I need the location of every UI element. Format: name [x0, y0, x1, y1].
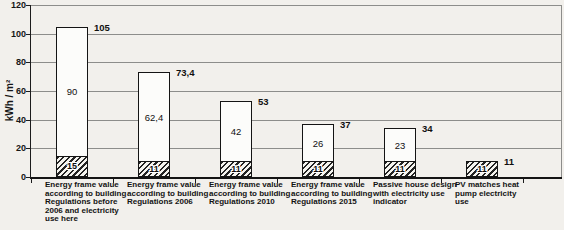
category-label: Energy frame valueaccording to buildingR… — [209, 181, 290, 207]
category-label: Energy frame valueaccording to buildingR… — [291, 181, 372, 207]
y-tick-mark — [26, 34, 31, 35]
y-tick-label: 120 — [0, 0, 26, 10]
bar-2: 62,411 — [138, 72, 170, 177]
bar-total-label: 11 — [504, 156, 514, 167]
category-label-line: Regulations 2015 — [291, 198, 372, 207]
bar-segment-white: 90 — [56, 27, 88, 157]
bar-total-label: 37 — [340, 119, 351, 130]
bar-segment-label: 15 — [67, 161, 77, 171]
bar-total-label: 73,4 — [176, 67, 195, 78]
y-tick-label: 60 — [0, 86, 26, 96]
y-tick-label: 20 — [0, 143, 26, 153]
plot-border-top — [31, 5, 562, 6]
category-label: Energy frame valueaccording to buildingR… — [127, 181, 208, 207]
category-label: PV matches heatpump electricityuse — [455, 181, 519, 207]
y-tick-mark — [26, 91, 31, 92]
gridline — [31, 120, 561, 121]
x-axis-line — [30, 177, 562, 179]
bar-segment-label: 11 — [231, 164, 241, 174]
bar-segment-hatched: 11 — [138, 161, 170, 177]
bar-total-label: 34 — [422, 123, 433, 134]
category-label-line: Regulations 2010 — [209, 198, 290, 207]
bar-total-label: 53 — [258, 96, 269, 107]
y-tick-mark — [26, 5, 31, 6]
x-tick-mark — [523, 179, 524, 183]
bar-segment-label: 42 — [231, 126, 242, 137]
bar-total-label: 105 — [94, 22, 110, 33]
plot-border-right — [561, 5, 562, 178]
bar-segment-hatched: 11 — [302, 161, 334, 177]
y-tick-label: 40 — [0, 115, 26, 125]
y-tick-mark — [26, 177, 31, 178]
bar-segment-label: 11 — [477, 164, 487, 174]
bar-segment-white: 62,4 — [138, 72, 170, 162]
gridline — [31, 62, 561, 63]
y-tick-label: 100 — [0, 29, 26, 39]
bar-segment-label: 11 — [149, 164, 159, 174]
y-tick-label: 80 — [0, 57, 26, 67]
bar-segment-label: 90 — [67, 86, 78, 97]
gridline — [31, 34, 561, 35]
x-tick-mark — [31, 179, 32, 183]
y-axis-title: kWh / m² — [3, 56, 16, 146]
gridline — [31, 91, 561, 92]
bar-segment-label: 11 — [395, 164, 405, 174]
bar-6: 11 — [466, 161, 498, 177]
bar-segment-hatched: 15 — [56, 156, 88, 178]
bar-segment-hatched: 11 — [384, 161, 416, 177]
bar-segment-white: 26 — [302, 124, 334, 162]
bar-segment-label: 23 — [395, 140, 406, 151]
category-label: Energy frame valueaccording to buildingR… — [45, 181, 126, 224]
category-label-line: indicator — [373, 198, 457, 207]
y-tick-label: 0 — [0, 172, 26, 182]
stacked-bar-chart: kWh / m² 0204060801001209015105Energy fr… — [0, 0, 564, 230]
bar-segment-white: 42 — [220, 101, 252, 162]
bar-segment-label: 26 — [313, 138, 324, 149]
bar-segment-hatched: 11 — [466, 161, 498, 177]
y-tick-mark — [26, 62, 31, 63]
bar-4: 2611 — [302, 124, 334, 177]
y-tick-mark — [26, 120, 31, 121]
gridline — [31, 148, 561, 149]
category-label-line: Regulations 2006 — [127, 198, 208, 207]
bar-segment-white: 23 — [384, 128, 416, 162]
bar-1: 9015 — [56, 27, 88, 178]
bar-segment-label: 11 — [313, 164, 323, 174]
bar-segment-label: 62,4 — [145, 112, 164, 123]
category-label-line: use here — [45, 215, 126, 224]
bar-3: 4211 — [220, 101, 252, 177]
category-label-line: use — [455, 198, 519, 207]
bar-5: 2311 — [384, 128, 416, 177]
category-label: Passive house designwith electricity use… — [373, 181, 457, 207]
y-tick-mark — [26, 148, 31, 149]
bar-segment-hatched: 11 — [220, 161, 252, 177]
